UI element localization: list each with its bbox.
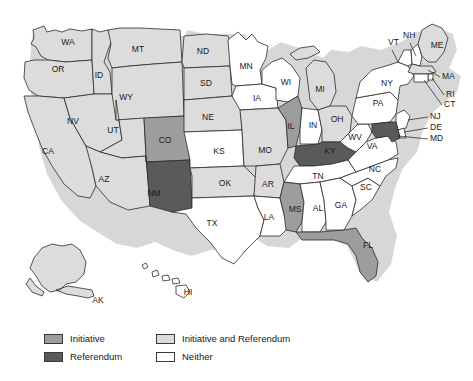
- state-AR[interactable]: [254, 164, 284, 198]
- legend-row-2: Referendum Neither: [44, 349, 374, 364]
- state-MO[interactable]: [240, 108, 288, 166]
- state-callout-label-de: DE: [430, 122, 442, 132]
- legend-row-1: Initiative Initiative and Referendum: [44, 331, 374, 346]
- legend-item-neither[interactable]: Neither: [156, 351, 213, 362]
- state-SD[interactable]: [184, 66, 232, 100]
- legend-swatch-initiative: [44, 334, 63, 344]
- state-HI: [142, 263, 148, 269]
- legend-swatch-referendum: [44, 352, 63, 362]
- state-NM[interactable]: [146, 156, 192, 212]
- state-HI-group[interactable]: [142, 263, 190, 298]
- map-legend: Initiative Initiative and Referendum Ref…: [44, 331, 374, 365]
- state-NE[interactable]: [184, 96, 242, 132]
- state-HI-3: [162, 275, 170, 281]
- state-HI-4: [172, 278, 180, 284]
- state-label-ak: AK: [92, 295, 104, 305]
- state-ND[interactable]: [182, 34, 232, 68]
- us-map-figure: WAORCAIDNVMTWYUTAZCONMNDSDNEKSOKTXMNIAMO…: [0, 0, 473, 381]
- state-RI[interactable]: [428, 74, 433, 80]
- state-callout-label-md: MD: [430, 133, 443, 143]
- legend-label-initiative-and-referendum: Initiative and Referendum: [182, 333, 290, 344]
- state-KS[interactable]: [184, 130, 244, 168]
- legend-label-neither: Neither: [182, 351, 213, 362]
- state-CO[interactable]: [144, 116, 190, 162]
- state-OK[interactable]: [190, 166, 256, 198]
- state-WY[interactable]: [112, 62, 184, 120]
- us-states-map: WAORCAIDNVMTWYUTAZCONMNDSDNEKSOKTXMNIAMO…: [0, 0, 473, 320]
- legend-item-referendum[interactable]: Referendum: [44, 351, 156, 362]
- state-MT[interactable]: [108, 28, 182, 68]
- state-HI-5: [176, 285, 190, 298]
- legend-label-referendum: Referendum: [70, 351, 122, 362]
- legend-swatch-initiative-and-referendum: [156, 334, 175, 344]
- legend-item-initiative-and-referendum[interactable]: Initiative and Referendum: [156, 333, 290, 344]
- legend-item-initiative[interactable]: Initiative: [44, 333, 156, 344]
- state-HI-2: [152, 270, 159, 277]
- state-AK[interactable]: [26, 244, 94, 298]
- state-CT[interactable]: [414, 74, 428, 82]
- legend-label-initiative: Initiative: [70, 333, 105, 344]
- state-IA[interactable]: [232, 84, 278, 110]
- state-OR[interactable]: [24, 60, 94, 98]
- legend-swatch-neither: [156, 352, 175, 362]
